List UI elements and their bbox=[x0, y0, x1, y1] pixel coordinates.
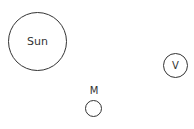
sun-circle: Sun bbox=[8, 12, 67, 71]
mercury-label: M bbox=[90, 85, 99, 96]
venus-circle: V bbox=[163, 53, 188, 78]
sun-label: Sun bbox=[27, 35, 48, 48]
venus-label: V bbox=[172, 60, 179, 71]
mercury-circle bbox=[85, 100, 102, 117]
